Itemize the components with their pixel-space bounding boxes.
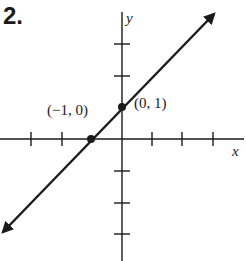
point-label-neg1-0: (−1, 0) (47, 102, 88, 119)
y-axis-label: y (126, 10, 133, 27)
x-axis-label: x (232, 143, 239, 160)
graph-line (3, 14, 214, 232)
point-label-0-1: (0, 1) (134, 95, 167, 112)
y-axis (114, 12, 130, 261)
point-0-1 (118, 103, 126, 111)
coordinate-graph (0, 0, 246, 261)
point-neg1-0 (87, 135, 95, 143)
